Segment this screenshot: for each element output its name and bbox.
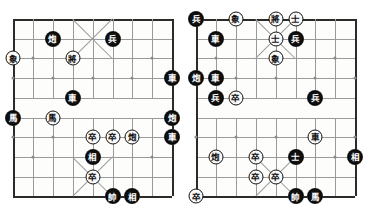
left-board-file-line	[93, 19, 94, 98]
right-board-star-point	[314, 77, 317, 80]
left-board-star-point	[51, 136, 54, 139]
right-board-file-line	[236, 118, 237, 197]
right-board-star-point	[274, 77, 277, 80]
xiangqi-diagram-page: 炮兵象將車車馬馬炮卒卒炮車相卒帥相兵象將士車士兵象炮車兵卒兵車炮卒士相卒卒卒帥馬	[0, 0, 369, 214]
piece-pawn-white[interactable]: 卒	[248, 169, 263, 184]
left-board-file-line	[13, 19, 15, 196]
left-board-star-point	[12, 136, 15, 139]
piece-advisor-white[interactable]: 士	[288, 12, 303, 27]
piece-chariot-black[interactable]: 車	[165, 130, 180, 145]
piece-general-white[interactable]: 將	[268, 12, 283, 27]
left-board-star-point	[31, 155, 34, 158]
piece-cannon-black[interactable]: 炮	[165, 110, 180, 125]
left-board-star-point	[151, 57, 154, 60]
left-board-star-point	[151, 155, 154, 158]
piece-cannon-black[interactable]: 炮	[189, 71, 204, 86]
left-board-star-point	[51, 77, 54, 80]
left-board-file-line	[172, 19, 174, 196]
left-board-star-point	[91, 77, 94, 80]
left-board-star-point	[131, 77, 134, 80]
left-board-file-line	[132, 19, 133, 98]
piece-pawn-white[interactable]: 卒	[189, 189, 204, 204]
piece-minister-black[interactable]: 相	[125, 189, 140, 204]
piece-soldier-black[interactable]: 兵	[308, 90, 323, 105]
piece-general-white[interactable]: 將	[65, 51, 80, 66]
right-board-file-line	[196, 19, 198, 196]
piece-elephant-white[interactable]: 象	[6, 51, 21, 66]
piece-horse-white[interactable]: 馬	[45, 110, 60, 125]
right-board-star-point	[234, 136, 237, 139]
right-board-file-line	[236, 19, 237, 98]
piece-marshal-black[interactable]: 帥	[288, 189, 303, 204]
piece-chariot-black[interactable]: 車	[208, 71, 223, 86]
piece-chariot-black[interactable]: 車	[165, 71, 180, 86]
piece-pawn-white[interactable]: 卒	[268, 169, 283, 184]
right-board-star-point	[334, 155, 337, 158]
piece-cannon-white[interactable]: 炮	[208, 149, 223, 164]
piece-pawn-white[interactable]: 卒	[105, 130, 120, 145]
right-board-star-point	[214, 57, 217, 60]
right-board-file-line	[315, 19, 316, 98]
right-board-rank-line	[196, 196, 355, 198]
piece-pawn-white[interactable]: 卒	[248, 149, 263, 164]
piece-soldier-black[interactable]: 兵	[208, 90, 223, 105]
piece-chariot-white[interactable]: 車	[308, 130, 323, 145]
right-board-star-point	[334, 57, 337, 60]
right-board-star-point	[195, 136, 198, 139]
piece-pawn-white[interactable]: 卒	[85, 130, 100, 145]
piece-minister-black[interactable]: 相	[85, 149, 100, 164]
left-board-file-line	[53, 118, 54, 197]
left-board-star-point	[31, 57, 34, 60]
piece-horse-black[interactable]: 馬	[308, 189, 323, 204]
piece-pawn-white[interactable]: 卒	[228, 90, 243, 105]
piece-cannon-white[interactable]: 炮	[125, 130, 140, 145]
left-board-rank-line	[13, 98, 172, 99]
right-board-file-line	[355, 19, 357, 196]
right-board-star-point	[234, 77, 237, 80]
left-board-star-point	[12, 77, 15, 80]
piece-advisor-white[interactable]: 士	[268, 31, 283, 46]
piece-marshal-black[interactable]: 帥	[105, 189, 120, 204]
piece-chariot-black[interactable]: 車	[208, 31, 223, 46]
piece-soldier-black[interactable]: 兵	[105, 31, 120, 46]
piece-elephant-white[interactable]: 象	[268, 51, 283, 66]
piece-minister-black[interactable]: 相	[348, 149, 363, 164]
right-board-star-point	[274, 136, 277, 139]
left-board-rank-line	[13, 196, 172, 198]
right-board-star-point	[354, 77, 357, 80]
right-board-star-point	[354, 136, 357, 139]
piece-soldier-black[interactable]: 兵	[189, 12, 204, 27]
piece-horse-black[interactable]: 馬	[6, 110, 21, 125]
piece-chariot-black[interactable]: 車	[65, 90, 80, 105]
piece-elephant-white[interactable]: 象	[228, 12, 243, 27]
piece-cannon-black[interactable]: 炮	[45, 31, 60, 46]
right-board-file-line	[276, 118, 277, 197]
piece-soldier-black[interactable]: 兵	[288, 31, 303, 46]
piece-advisor-black[interactable]: 士	[288, 149, 303, 164]
piece-pawn-white[interactable]: 卒	[85, 169, 100, 184]
